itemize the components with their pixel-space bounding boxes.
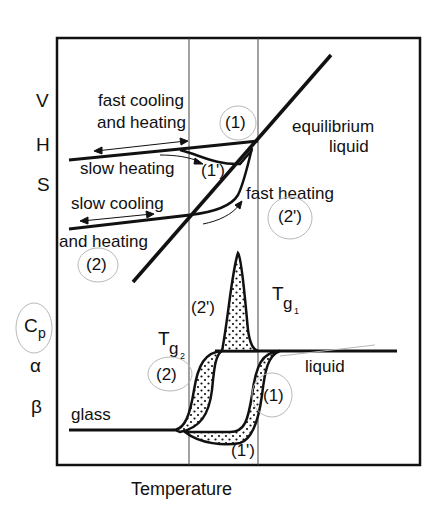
label-equilibrium: equilibrium [292, 117, 374, 136]
tag-slow-heating: (1') [201, 161, 225, 180]
y-label-alpha: α [30, 355, 41, 376]
y-label-v: V [36, 90, 49, 111]
x-axis-label: Temperature [131, 479, 232, 499]
tag-slow-cooling: (2) [86, 255, 107, 274]
label-glass: glass [71, 405, 111, 424]
tag-2prime: (2') [191, 298, 215, 317]
label-equilibrium-liquid: liquid [329, 137, 369, 156]
label-slow-heating: slow heating [80, 159, 175, 178]
label-tg1: T g 1 [272, 283, 299, 316]
y-label-s: S [37, 174, 50, 195]
tag-fast-heating: (2') [278, 207, 302, 226]
label-fast-cooling-heating: and heating [97, 113, 186, 132]
tag-1: (1) [263, 386, 284, 405]
diagram-canvas: V H S fast cooling and heating (1) slow … [0, 0, 444, 511]
y-label-cp-subscript: p [38, 325, 46, 341]
peak-2prime [222, 253, 258, 351]
svg-text:1: 1 [294, 306, 299, 316]
tag-1prime: (1') [231, 441, 255, 460]
label-tg2: T g 2 [158, 328, 185, 361]
label-fast-cooling: fast cooling [98, 91, 184, 110]
svg-text:g: g [169, 339, 178, 358]
y-label-h: H [36, 134, 50, 155]
y-label-beta: β [31, 396, 42, 417]
tag-fast-cooling: (1) [225, 113, 246, 132]
y-label-cp: C [24, 315, 38, 336]
label-liquid: liquid [305, 357, 345, 376]
label-slow-cooling: slow cooling [71, 194, 164, 213]
tag-2: (2) [156, 365, 177, 384]
svg-text:g: g [283, 294, 292, 313]
band-2 [175, 351, 222, 432]
label-fast-heating: fast heating [246, 184, 334, 203]
